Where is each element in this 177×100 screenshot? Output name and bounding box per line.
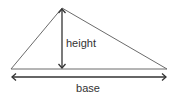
triangle-diagram: height base [0,0,177,100]
base-label: base [76,82,100,94]
height-label: height [66,37,96,49]
base-arrow [12,74,166,81]
height-arrow [59,9,66,68]
